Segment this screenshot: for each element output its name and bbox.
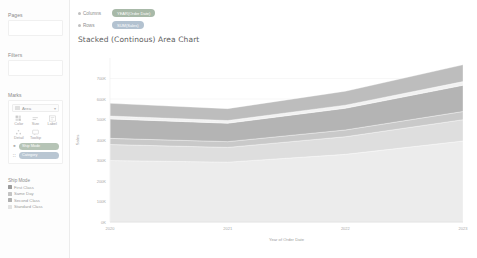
- legend-item-label: Standard Class: [14, 204, 43, 209]
- marks-tooltip-button[interactable]: Tooltip: [29, 129, 43, 141]
- marks-properties-spacer: [45, 129, 59, 141]
- marks-detail-pill-row[interactable]: ∷ Category: [12, 152, 59, 159]
- tooltip-icon: [32, 129, 39, 136]
- legend-swatch: [8, 205, 12, 209]
- columns-shelf-label: Columns: [83, 11, 101, 16]
- pages-shelf-label: Pages: [8, 12, 63, 18]
- columns-shelf-label-wrap: Columns: [78, 11, 112, 16]
- y-axis-tick-label: 300K: [97, 158, 107, 163]
- legend-item-label: First Class: [14, 185, 34, 190]
- chevron-down-icon: ▾: [54, 106, 56, 111]
- columns-shelf-icon: [78, 12, 81, 15]
- detail-pill-icon: ∷: [12, 153, 17, 158]
- y-axis-tick-label: 100K: [97, 199, 107, 204]
- marks-card: Marks Area ▾ Color: [8, 92, 63, 164]
- pages-drop-zone[interactable]: [8, 20, 63, 36]
- marks-card-body: Area ▾ Color Size: [8, 100, 63, 164]
- ship-mode-legend: Ship Mode First Class Same Day Second Cl…: [8, 178, 63, 210]
- x-axis-tick-label: 2022: [341, 226, 351, 231]
- detail-icon: [15, 129, 22, 136]
- mark-type-value: Area: [22, 106, 52, 111]
- area-mark-icon: [15, 106, 20, 110]
- legend-swatch: [8, 185, 12, 189]
- label-icon: [49, 115, 56, 122]
- y-axis-tick-label: 700K: [97, 76, 107, 81]
- legend-swatch: [8, 192, 12, 196]
- area-chart-viz[interactable]: 0K100K200K300K400K500K600K700K2020202120…: [70, 52, 477, 252]
- marks-color-pill[interactable]: Ship Mode: [19, 143, 59, 150]
- columns-drop-zone[interactable]: YEAR(Order Date): [112, 9, 469, 18]
- marks-tooltip-label: Tooltip: [30, 137, 41, 141]
- marks-label-button[interactable]: Label: [45, 115, 59, 127]
- y-axis-tick-label: 200K: [97, 179, 107, 184]
- columns-pill[interactable]: YEAR(Order Date): [112, 9, 155, 17]
- rows-shelf[interactable]: Rows SUM(Sales): [78, 20, 469, 30]
- rows-shelf-label-wrap: Rows: [78, 23, 112, 28]
- rows-shelf-label: Rows: [83, 23, 95, 28]
- worksheet-sidebar: Pages Filters Marks Area ▾: [0, 0, 70, 258]
- marks-properties-row-1: Color Size Label: [12, 115, 59, 127]
- legend-title: Ship Mode: [8, 178, 63, 183]
- rows-drop-zone[interactable]: SUM(Sales): [112, 21, 469, 30]
- mark-type-dropdown[interactable]: Area ▾: [12, 104, 59, 112]
- filters-shelf[interactable]: Filters: [8, 52, 63, 76]
- x-axis-tick-label: 2023: [459, 226, 469, 231]
- shelves-area: Columns YEAR(Order Date) Rows SUM(Sales): [70, 0, 477, 30]
- worksheet-canvas: Columns YEAR(Order Date) Rows SUM(Sales)…: [70, 0, 477, 258]
- size-icon: [32, 115, 39, 122]
- y-axis-tick-label: 500K: [97, 117, 107, 122]
- legend-item-standard-class[interactable]: Standard Class: [8, 204, 63, 209]
- x-axis-title: Year of Order Date: [269, 237, 305, 242]
- marks-detail-label: Detail: [14, 137, 24, 141]
- color-pill-icon: ■: [12, 144, 17, 148]
- marks-color-label: Color: [14, 123, 23, 127]
- legend-item-same-day[interactable]: Same Day: [8, 191, 63, 196]
- legend-item-label: Second Class: [14, 198, 40, 203]
- rows-shelf-icon: [78, 24, 81, 27]
- columns-shelf[interactable]: Columns YEAR(Order Date): [78, 8, 469, 18]
- marks-color-button[interactable]: Color: [12, 115, 26, 127]
- x-axis-tick-label: 2020: [106, 226, 116, 231]
- legend-item-first-class[interactable]: First Class: [8, 185, 63, 190]
- marks-properties-row-2: Detail Tooltip: [12, 129, 59, 141]
- tableau-worksheet-window: Pages Filters Marks Area ▾: [0, 0, 477, 258]
- marks-color-pill-row[interactable]: ■ Ship Mode: [12, 143, 59, 150]
- rows-pill[interactable]: SUM(Sales): [112, 21, 144, 29]
- marks-detail-pill[interactable]: Category: [19, 152, 59, 159]
- y-axis-tick-label: 600K: [97, 97, 107, 102]
- filters-drop-zone[interactable]: [8, 60, 63, 76]
- pages-shelf[interactable]: Pages: [8, 12, 63, 36]
- marks-card-label: Marks: [8, 92, 63, 98]
- worksheet-title: Stacked (Continous) Area Chart: [70, 32, 477, 44]
- filters-shelf-label: Filters: [8, 52, 63, 58]
- marks-label-label: Label: [48, 123, 57, 127]
- legend-item-label: Same Day: [14, 191, 34, 196]
- y-axis-tick-label: 0K: [101, 220, 106, 225]
- marks-size-label: Size: [32, 123, 39, 127]
- y-axis-tick-label: 400K: [97, 138, 107, 143]
- x-axis-tick-label: 2021: [223, 226, 233, 231]
- color-palette-icon: [15, 115, 22, 122]
- area-chart-svg: 0K100K200K300K400K500K600K700K2020202120…: [70, 52, 477, 252]
- legend-item-second-class[interactable]: Second Class: [8, 198, 63, 203]
- legend-swatch: [8, 198, 12, 202]
- marks-size-button[interactable]: Size: [29, 115, 43, 127]
- marks-detail-button[interactable]: Detail: [12, 129, 26, 141]
- y-axis-title: Sales: [75, 135, 80, 145]
